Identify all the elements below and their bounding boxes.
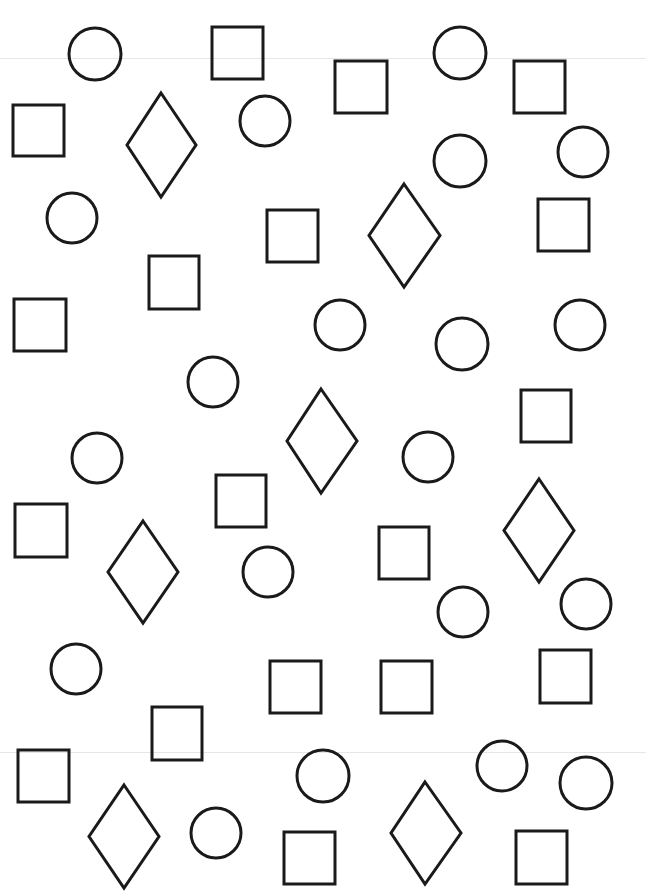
circle-shape xyxy=(436,318,488,370)
circle-shape xyxy=(477,741,527,791)
square-shape xyxy=(270,661,321,713)
circle-shape xyxy=(47,193,97,243)
diamond-shape xyxy=(391,782,461,884)
square-shape xyxy=(379,527,429,579)
circle-shape xyxy=(188,357,238,407)
square-shape xyxy=(335,61,387,113)
circle-shape xyxy=(560,757,612,809)
square-shape xyxy=(521,390,571,442)
square-shape xyxy=(538,199,589,251)
square-shape xyxy=(15,504,67,557)
square-shape xyxy=(18,750,69,802)
diamond-shape xyxy=(89,785,159,888)
circle-shape xyxy=(403,432,453,482)
circle-shape xyxy=(243,547,293,597)
diamond-shape xyxy=(287,389,357,493)
square-shape xyxy=(13,105,64,156)
diamond-shape xyxy=(127,93,196,197)
shapes-worksheet xyxy=(0,0,646,894)
square-shape xyxy=(267,210,318,262)
circle-shape xyxy=(558,127,608,177)
diamond-shape xyxy=(504,479,574,582)
square-shape xyxy=(149,256,199,309)
circle-shape xyxy=(51,644,101,694)
circle-shape xyxy=(434,135,486,187)
square-shape xyxy=(284,832,335,884)
square-shape xyxy=(152,707,202,760)
square-shape xyxy=(14,299,66,351)
circle-shape xyxy=(315,300,365,350)
circle-shape xyxy=(561,579,611,629)
circle-shape xyxy=(72,433,122,483)
square-shape xyxy=(516,831,567,884)
circle-shape xyxy=(297,750,349,802)
circle-shape xyxy=(69,28,121,80)
circle-shape xyxy=(438,587,488,637)
circle-shape xyxy=(240,96,290,146)
square-shape xyxy=(540,650,591,703)
diamond-shape xyxy=(369,184,440,287)
diamond-shape xyxy=(108,521,178,623)
circle-shape xyxy=(434,27,486,79)
circle-shape xyxy=(555,300,605,350)
circle-shape xyxy=(191,808,241,858)
square-shape xyxy=(212,27,263,79)
square-shape xyxy=(514,61,565,113)
square-shape xyxy=(216,475,266,527)
square-shape xyxy=(381,661,432,713)
